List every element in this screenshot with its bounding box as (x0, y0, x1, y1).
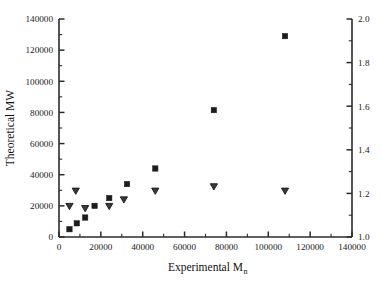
y-axis-left-ticks (59, 19, 65, 237)
tick-label: 60000 (173, 242, 196, 252)
data-point-triangle (210, 184, 217, 190)
tick-label: 0 (48, 232, 53, 242)
data-point-triangle (82, 206, 89, 212)
tick-label: 2.0 (358, 14, 370, 24)
y-axis-left-title: Theoretical MW (4, 90, 16, 166)
data-point-triangle (72, 188, 79, 194)
tick-label: 80000 (30, 108, 53, 118)
data-point-square (282, 33, 287, 38)
chart-figure: 020000400006000080000100000120000140000 … (0, 0, 381, 286)
plot-frame (59, 19, 352, 237)
tick-label: 20000 (89, 242, 112, 252)
tick-label: 1.8 (358, 58, 370, 68)
data-point-square (124, 181, 129, 186)
data-point-triangle (281, 188, 288, 194)
x-axis-title-subscript: n (244, 267, 248, 276)
tick-label: 40000 (30, 170, 53, 180)
data-point-triangle (66, 203, 73, 209)
data-point-square (82, 215, 87, 220)
tick-label: 1.2 (358, 189, 370, 199)
x-axis-title-group: Experimental M n (168, 261, 248, 276)
data-point-triangle (120, 197, 127, 203)
tick-label: 1.4 (358, 145, 370, 155)
tick-label: 100000 (25, 77, 53, 87)
y-axis-left-tick-labels: 020000400006000080000100000120000140000 (25, 14, 53, 242)
data-point-square (153, 166, 158, 171)
tick-label: 60000 (30, 139, 53, 149)
scatter-plot: 020000400006000080000100000120000140000 … (0, 0, 381, 286)
data-point-square (92, 203, 97, 208)
tick-label: 140000 (338, 242, 366, 252)
tick-label: 120000 (296, 242, 324, 252)
tick-label: 0 (57, 242, 62, 252)
tick-label: 140000 (25, 14, 53, 24)
tick-label: 100000 (255, 242, 283, 252)
tick-label: 80000 (215, 242, 238, 252)
data-point-square (107, 195, 112, 200)
tick-label: 20000 (30, 201, 53, 211)
data-point-square (74, 221, 79, 226)
series-polydispersity (66, 184, 289, 212)
tick-label: 1.6 (358, 102, 370, 112)
y-axis-right-ticks (347, 19, 353, 237)
data-point-square (211, 107, 216, 112)
y-axis-right-tick-labels: 1.01.21.41.61.82.0 (358, 14, 370, 242)
x-axis-tick-labels: 020000400006000080000100000120000140000 (57, 242, 366, 252)
series-theoretical-mw (67, 33, 288, 231)
tick-label: 120000 (25, 45, 53, 55)
data-point-triangle (152, 188, 159, 194)
data-point-square (67, 227, 72, 232)
x-axis-title: Experimental M (168, 261, 243, 274)
x-axis-ticks (59, 232, 352, 238)
tick-label: 1.0 (358, 232, 370, 242)
tick-label: 40000 (131, 242, 154, 252)
data-point-triangle (106, 203, 113, 209)
